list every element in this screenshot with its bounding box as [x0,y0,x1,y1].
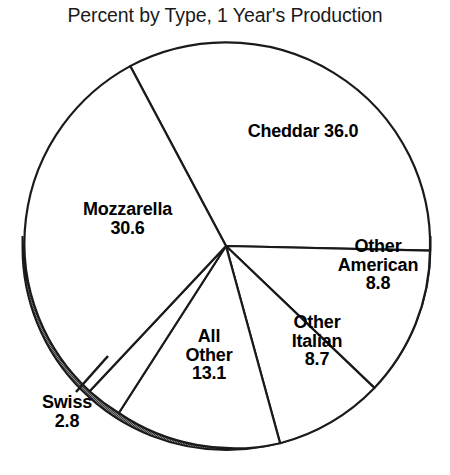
slice-label-swiss: Swiss 2.8 [14,393,120,430]
slice-label-other-italian: Other Italian 8.7 [265,313,369,369]
slice-label-other-american: Other American 8.8 [310,237,446,293]
slice-label-mozzarella: Mozzarella 30.6 [55,200,200,237]
slice-label-all-other: All Other 13.1 [160,327,258,383]
slice-label-cheddar: Cheddar 36.0 [218,122,388,141]
